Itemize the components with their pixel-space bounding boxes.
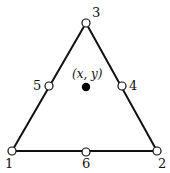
node-5 [45,82,53,90]
node-2 [153,147,161,155]
interior-point [82,83,90,91]
node-1 [8,147,16,155]
node-6 [82,148,90,156]
node-5-label: 5 [33,78,41,93]
node-3-label: 3 [92,5,100,20]
interior-point-label: (x, y) [72,67,103,81]
node-1-label: 1 [5,156,13,171]
node-4-label: 4 [129,78,137,93]
node-6-label: 6 [82,156,90,171]
node-3 [82,19,90,27]
triangle-element-diagram: 1 2 3 4 5 6 (x, y) [0,0,170,173]
node-4 [118,82,126,90]
node-2-label: 2 [158,156,166,171]
